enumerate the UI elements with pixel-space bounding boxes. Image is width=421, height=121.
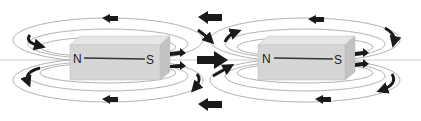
- north-pole-label-right: N: [262, 52, 271, 66]
- south-pole-label-left: S: [146, 53, 154, 67]
- two-bar-magnets-diagram: N S N S: [0, 0, 421, 121]
- magnet-left: N S: [70, 36, 170, 80]
- south-pole-label-right: S: [334, 53, 342, 67]
- north-pole-label-left: N: [73, 52, 82, 66]
- magnet-right: N S: [258, 36, 355, 80]
